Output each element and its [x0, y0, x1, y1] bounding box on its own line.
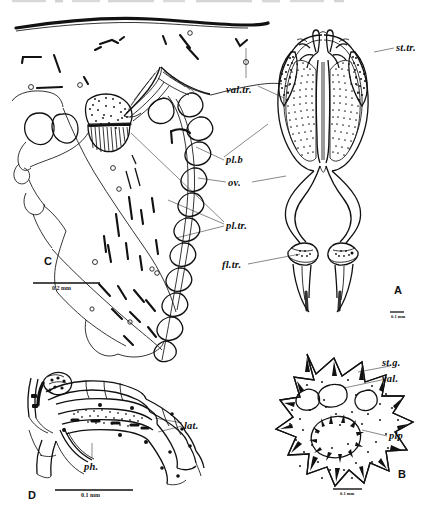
label-ov: ov. [228, 177, 241, 188]
figure-plate: C 0.2 mm [0, 0, 425, 517]
panel-a-letter: A [394, 284, 402, 296]
panel-d-scale-label: 0.1 mm [81, 492, 100, 498]
panel-c-scale-label: 0.2 mm [52, 285, 71, 291]
panel-d-letter: D [28, 489, 36, 501]
label-st-tr: st.tr. [395, 42, 416, 53]
panel-b-letter: B [398, 468, 406, 480]
panel-c-letter: C [44, 255, 52, 267]
top-cropped-text-fragments [12, 0, 344, 2]
label-val: val. [382, 373, 398, 384]
label-ph: ph. [83, 461, 98, 472]
label-plp: plp [388, 430, 403, 441]
plate-background [0, 0, 425, 517]
panel-a-scale-label: 0.1 mm [391, 314, 405, 319]
label-pl-b: pl.b [225, 154, 243, 165]
label-val-tr: val.tr. [226, 84, 252, 95]
label-pl-tr: pl.tr. [225, 220, 247, 231]
label-st-g: st.g. [381, 357, 401, 368]
panel-b-scale-label: 0.1 mm [340, 491, 354, 496]
label-fl-tr: fl.tr. [222, 259, 241, 270]
label-lat: lat. [184, 420, 199, 431]
